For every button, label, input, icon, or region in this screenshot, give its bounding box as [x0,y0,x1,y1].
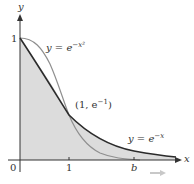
point-label-prefix: (1, e [75,99,98,110]
curve-label-gaussian: y = e−x² [46,43,85,53]
x-tick-label-b: b [131,163,137,173]
x-axis-arrow-icon [175,157,182,163]
curve-label-exponential: y = e−x [128,134,164,144]
curve-label-gaussian-base: y = e [46,42,72,53]
x-tick-label-1: 1 [66,163,72,173]
y-tick-label-1: 1 [11,34,17,44]
curve-label-exponential-base: y = e [128,133,154,144]
y-axis-arrow-icon [17,14,23,21]
point-label-suffix: ) [108,99,112,110]
point-label-exponent: −1 [98,98,108,106]
curve-label-exponential-exponent: −x [154,132,164,140]
curve-label-gaussian-exponent: −x² [72,41,85,49]
point-label: (1, e−1) [75,100,112,110]
y-axis-label: y [18,2,24,12]
direction-arrow-icon [160,170,166,176]
chart-canvas [0,0,194,184]
x-axis-label: x [184,154,190,164]
origin-label: 0 [10,163,16,173]
